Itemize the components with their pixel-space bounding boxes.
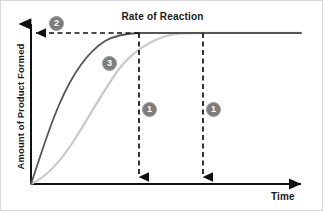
callout-marker-3[interactable]: 3 [102,56,117,71]
fast-reaction-curve [31,33,301,184]
chart-figure: Rate of Reaction Amount of Product Forme… [0,0,323,211]
callout-marker-1-fast[interactable]: 1 [142,102,157,117]
callout-marker-2[interactable]: 2 [49,16,64,31]
callout-marker-1-slow[interactable]: 1 [206,102,221,117]
chart-plot-area [1,1,323,211]
slow-reaction-curve [31,33,301,184]
